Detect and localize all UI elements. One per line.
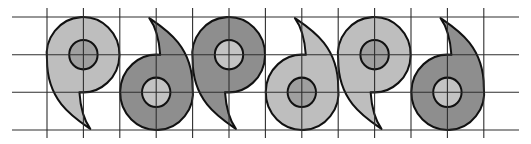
pattern-canvas: Alternating comma (magatama) tessellatio… [0, 0, 531, 144]
comma-tessellation-diagram [0, 0, 531, 144]
